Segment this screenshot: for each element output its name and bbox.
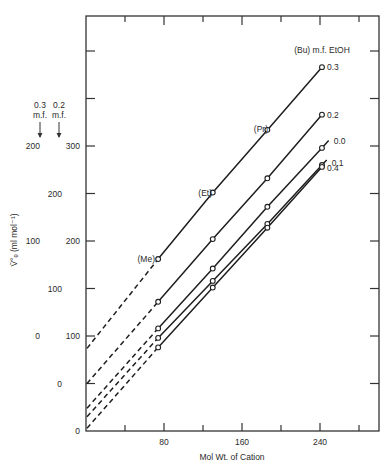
y-tick-label: 100: [66, 331, 80, 341]
y-tick-label: 200: [26, 141, 40, 151]
series-line-0.2: [158, 115, 322, 302]
data-point: [320, 65, 325, 70]
scale-header-02-a: 0.2: [53, 100, 65, 110]
data-point: [156, 336, 161, 341]
arrow-down-icon: [38, 122, 43, 138]
data-point: [210, 237, 215, 242]
y-tick-label: 0: [57, 379, 62, 389]
x-tick-label: 240: [313, 437, 327, 447]
series-line-0.3: [158, 67, 322, 259]
data-point: [156, 326, 161, 331]
x-tick-label: 80: [159, 437, 169, 447]
scale-header-03-b: m.f.: [33, 110, 47, 120]
data-points: 0.30.20.00.10.4: [156, 62, 346, 350]
data-point: [156, 345, 161, 350]
data-point: [210, 285, 215, 290]
extrapolation-line-0.1: [87, 338, 158, 417]
extrapolation-line-0.4: [87, 347, 158, 428]
y-tick-label: 200: [66, 236, 80, 246]
series-line-0.1: [158, 160, 327, 338]
extrapolation-line-0.2: [87, 302, 158, 384]
data-point: [265, 225, 270, 230]
extrapolation-line-0.0: [87, 328, 158, 408]
y-tick-label: 0: [75, 426, 80, 436]
axis-ticks: 80160240010020030001002000100200: [26, 16, 379, 447]
chart: 80160240010020030001002000100200 0.30.20…: [0, 0, 390, 471]
data-point: [156, 299, 161, 304]
series-label-0.4: 0.4: [327, 163, 339, 173]
scale-header-03-a: 0.3: [34, 100, 46, 110]
y-tick-label: 100: [26, 236, 40, 246]
x-axis-title: Mol Wt. of Cation: [199, 452, 264, 462]
x-tick-label: 160: [235, 437, 249, 447]
arrow-down-icon: [57, 122, 62, 138]
data-point: [320, 146, 325, 151]
data-point: [265, 176, 270, 181]
series-label-0.0: 0.0: [334, 136, 346, 146]
legend-header: (Bu) m.f. EtOH: [294, 45, 350, 55]
extrapolation-line-0.3: [87, 259, 158, 348]
annotation-pr: (Pr): [254, 124, 268, 134]
y-tick-label: 200: [48, 189, 62, 199]
series-lines: [87, 67, 329, 428]
scale-header-02-b: m.f.: [52, 110, 66, 120]
y-axis-title: V̄°ₑ (ml mol⁻¹): [9, 213, 19, 266]
chart-labels: Mol Wt. of Cation V̄°ₑ (ml mol⁻¹) (Bu) m…: [9, 45, 350, 462]
series-line-0.4: [158, 167, 322, 348]
y-tick-label: 100: [48, 284, 62, 294]
y-tick-label: 300: [66, 141, 80, 151]
data-point: [210, 266, 215, 271]
data-point: [210, 279, 215, 284]
data-point: [156, 257, 161, 262]
y-tick-label: 0: [35, 331, 40, 341]
data-point: [320, 165, 325, 170]
annotation-et: (Et): [198, 188, 212, 198]
series-label-0.3: 0.3: [327, 62, 339, 72]
data-point: [265, 204, 270, 209]
series-line-0.0: [158, 141, 329, 329]
series-label-0.2: 0.2: [327, 110, 339, 120]
data-point: [320, 112, 325, 117]
annotation-me: (Me): [138, 254, 156, 264]
